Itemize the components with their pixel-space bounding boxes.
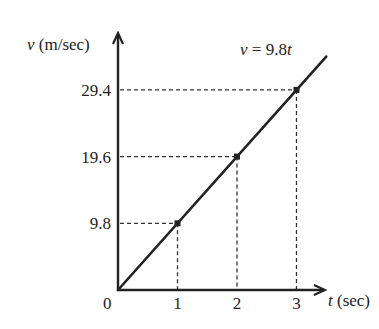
y-tick-labels: 9.819.629.4 (81, 81, 111, 233)
velocity-time-chart: 9.819.629.4 123 0 v (m/sec) t (sec) v = … (0, 0, 379, 329)
x-tick-label: 1 (173, 294, 182, 313)
x-tick-label: 2 (233, 294, 242, 313)
y-axis-label: v (m/sec) (27, 35, 90, 54)
equation-label: v = 9.8t (240, 40, 293, 59)
y-tick-label: 29.4 (81, 81, 111, 100)
y-tick-label: 19.6 (81, 148, 111, 167)
y-tick-label: 9.8 (90, 214, 111, 233)
x-tick-labels: 123 (173, 294, 301, 313)
x-tick-label: 3 (292, 294, 301, 313)
data-point (294, 87, 300, 93)
origin-label: 0 (103, 294, 112, 313)
x-axis-label: t (sec) (328, 291, 370, 310)
data-point (175, 220, 181, 226)
data-point (234, 154, 240, 160)
